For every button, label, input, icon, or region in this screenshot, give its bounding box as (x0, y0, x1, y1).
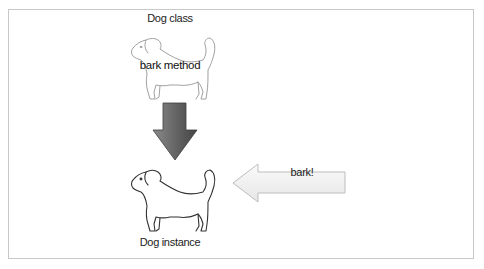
dog-instance-label: Dog instance (140, 236, 201, 248)
left-arrow-icon (233, 164, 345, 202)
bark-method-label: bark method (140, 59, 201, 71)
dog-class-label: Dog class (147, 12, 193, 24)
diagram-canvas (0, 0, 484, 269)
dog-instance-icon (132, 170, 215, 231)
bark-message-label: bark! (291, 166, 314, 178)
down-arrow-icon (153, 103, 197, 160)
